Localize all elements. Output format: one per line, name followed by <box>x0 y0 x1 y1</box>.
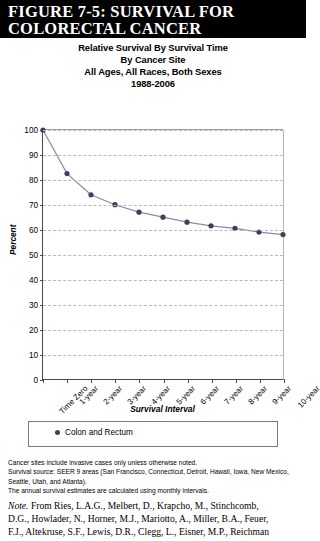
legend-item-colon-and-rectum[interactable]: Colon and Rectum <box>55 428 133 437</box>
x-tick-mark <box>188 379 189 383</box>
footnote-line-4: The annual survival estimates are calcul… <box>8 486 300 495</box>
y-tick-mark <box>40 180 43 181</box>
data-point-marker[interactable] <box>136 210 141 215</box>
y-tick-mark <box>40 305 43 306</box>
plot-wrapper: Percent 0102030405060708090100Time Zero1… <box>0 38 306 378</box>
y-tick-label: 60 <box>29 226 38 235</box>
x-tick-mark <box>212 379 213 383</box>
y-tick-mark <box>40 130 43 131</box>
y-tick-mark <box>40 355 43 356</box>
x-tick-mark <box>284 379 285 383</box>
y-gridline <box>43 230 283 231</box>
y-tick-mark <box>40 255 43 256</box>
y-tick-label: 90 <box>29 151 38 160</box>
y-gridline <box>43 130 283 131</box>
y-tick-mark <box>40 330 43 331</box>
y-tick-mark <box>40 155 43 156</box>
x-tick-mark <box>115 379 116 383</box>
y-tick-label: 80 <box>29 176 38 185</box>
plot-right-rule <box>283 130 284 380</box>
x-tick-mark <box>91 379 92 383</box>
y-tick-label: 30 <box>29 301 38 310</box>
y-axis-title: Percent <box>8 225 18 255</box>
y-tick-label: 70 <box>29 201 38 210</box>
diamond-marker-icon <box>55 430 60 435</box>
plot-area: 0102030405060708090100Time Zero1-year2-y… <box>42 130 283 380</box>
footnote-line-3: Seattle, Utah, and Atlanta). <box>8 477 300 486</box>
chart-legend: Colon and Rectum <box>28 421 278 447</box>
figure-header-band: FIGURE 7-5: SURVIVAL FOR COLORECTAL CANC… <box>0 0 306 38</box>
figure-header-line-2: COLORECTAL CANCER <box>8 20 298 37</box>
y-gridline <box>43 180 283 181</box>
data-point-marker[interactable] <box>184 220 189 225</box>
y-gridline <box>43 255 283 256</box>
y-gridline <box>43 205 283 206</box>
data-point-marker[interactable] <box>280 232 285 237</box>
source-note-line-2: D.G., Howlader, N., Horner, M.J., Mariot… <box>8 512 304 525</box>
x-axis-title: Survival Interval <box>42 404 283 414</box>
x-tick-mark <box>43 379 44 383</box>
x-tick-mark <box>236 379 237 383</box>
y-tick-mark <box>40 230 43 231</box>
y-tick-label: 100 <box>24 126 38 135</box>
x-tick-label: 10-year <box>296 384 320 410</box>
data-point-marker[interactable] <box>64 171 69 176</box>
y-gridline <box>43 155 283 156</box>
y-tick-label: 0 <box>33 376 38 385</box>
data-point-marker[interactable] <box>88 192 93 197</box>
data-point-marker[interactable] <box>208 223 213 228</box>
y-tick-mark <box>40 205 43 206</box>
x-tick-mark <box>139 379 140 383</box>
source-note-lead: Note. <box>8 500 29 511</box>
y-gridline <box>43 280 283 281</box>
y-tick-label: 10 <box>29 351 38 360</box>
y-gridline <box>43 305 283 306</box>
source-note-line-1: Note. From Ries, L.A.G., Melbert, D., Kr… <box>8 499 304 512</box>
footnote-line-2: Survival source: SEER 9 areas (San Franc… <box>8 467 300 476</box>
data-point-marker[interactable] <box>160 215 165 220</box>
source-note-line-3: F.J., Altekruse, S.F., Lewis, D.R., Cleg… <box>8 525 304 538</box>
footnote-line-1: Cancer sites include invasive cases only… <box>8 458 300 467</box>
chart-footnotes: Cancer sites include invasive cases only… <box>8 458 300 496</box>
x-tick-mark <box>260 379 261 383</box>
y-tick-label: 40 <box>29 276 38 285</box>
y-tick-mark <box>40 280 43 281</box>
y-tick-label: 50 <box>29 251 38 260</box>
figure-header-line-1: FIGURE 7-5: SURVIVAL FOR <box>8 3 298 20</box>
y-gridline <box>43 355 283 356</box>
y-gridline <box>43 330 283 331</box>
source-note-line-1-text: From Ries, L.A.G., Melbert, D., Krapcho,… <box>29 500 259 511</box>
x-tick-mark <box>67 379 68 383</box>
chart-card: Relative Survival By Survival Time By Ca… <box>0 38 306 378</box>
legend-item-label: Colon and Rectum <box>65 428 133 437</box>
source-note: Note. From Ries, L.A.G., Melbert, D., Kr… <box>8 499 304 541</box>
x-tick-mark <box>164 379 165 383</box>
y-tick-label: 20 <box>29 326 38 335</box>
